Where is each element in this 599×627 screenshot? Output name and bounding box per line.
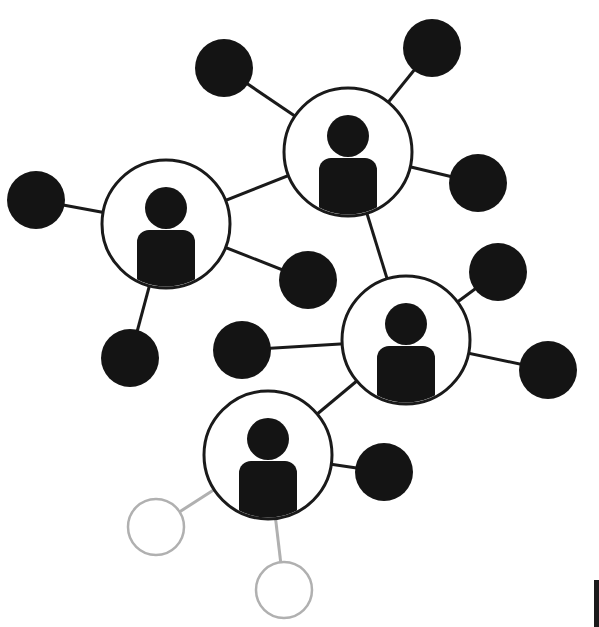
network-diagram <box>0 0 599 627</box>
network-node <box>7 171 65 229</box>
network-node <box>279 251 337 309</box>
person-icon <box>319 115 377 220</box>
nodes-layer <box>7 19 577 618</box>
network-node <box>519 341 577 399</box>
person-icon <box>377 303 435 408</box>
network-node <box>101 329 159 387</box>
person-hub <box>204 391 332 523</box>
person-hub <box>284 88 412 220</box>
network-node <box>449 154 507 212</box>
network-node <box>213 321 271 379</box>
inactive-node <box>128 499 184 555</box>
person-icon <box>239 418 297 523</box>
person-hub <box>102 160 230 292</box>
network-node <box>403 19 461 77</box>
network-node <box>355 443 413 501</box>
network-node <box>195 39 253 97</box>
person-hub <box>342 276 470 408</box>
inactive-node <box>256 562 312 618</box>
edge-mark <box>594 580 599 627</box>
hubs-layer <box>102 88 470 523</box>
network-node <box>469 243 527 301</box>
person-icon <box>137 187 195 292</box>
